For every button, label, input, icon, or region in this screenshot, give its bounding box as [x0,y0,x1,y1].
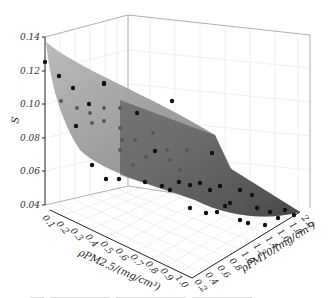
z-axis-ticks: 0.14 0.12 0.10 0.08 0.06 0.04 [20,32,45,210]
svg-text:0.2: 0.2 [54,219,71,237]
z-axis-label: S [9,116,21,125]
svg-text:0.14: 0.14 [20,32,40,42]
svg-text:0.10: 0.10 [20,99,40,109]
y-axis-label: ρPM10/(mg/cm³) [238,219,317,274]
svg-text:0.6: 0.6 [113,246,130,264]
svg-text:0.1: 0.1 [40,213,57,230]
svg-text:0.08: 0.08 [20,133,40,143]
figure-caption [30,288,300,294]
x-axis-ticks: 0.1 0.2 0.3 0.4 0.5 0.6 0.7 0.8 0.9 1.0 [40,213,190,291]
svg-text:0.04: 0.04 [20,200,40,210]
surface-plot: 0.14 0.12 0.10 0.08 0.06 0.04 S 0.1 0.2 … [0,0,329,298]
svg-text:0.12: 0.12 [20,66,40,76]
svg-text:0.4: 0.4 [83,232,100,250]
svg-text:0.5: 0.5 [98,239,115,257]
svg-text:0.06: 0.06 [20,166,40,176]
fitted-surface [46,42,300,216]
